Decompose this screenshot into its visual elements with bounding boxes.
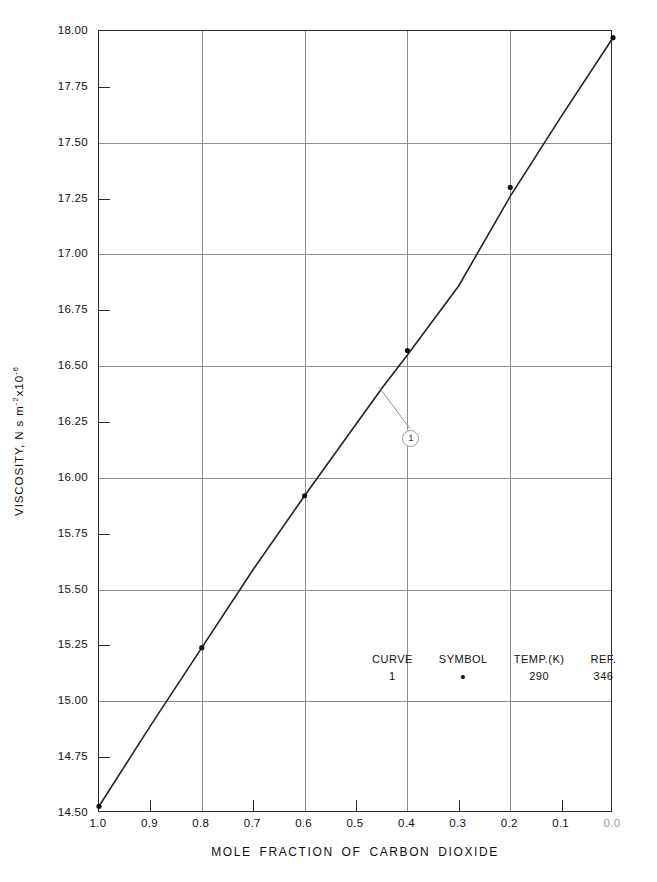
y-axis-title: VISCOSITY, N s m-2x10-6: [11, 366, 25, 516]
legend: CURVE SYMBOL TEMP.(K) REF. 1 • 290 346: [359, 651, 629, 685]
x-tick-label: 0.7: [244, 817, 261, 829]
x-tick-label: 0.6: [295, 817, 312, 829]
chart-page: VISCOSITY, N s m-2x10-6 MOLE FRACTION OF…: [0, 0, 657, 882]
x-tick-label: 0.1: [552, 817, 569, 829]
y-axis-title-mid: x10: [13, 375, 25, 396]
legend-cell-temp: 290: [501, 668, 578, 685]
x-tick-label: 0.2: [501, 817, 518, 829]
x-tick-label: 0.4: [398, 817, 415, 829]
legend-row: 1 • 290 346: [359, 668, 629, 685]
y-tick-label: 16.75: [38, 303, 88, 315]
data-point: [405, 348, 410, 353]
y-axis-title-exponent-2: -6: [11, 366, 20, 375]
callout-leader-line: [379, 387, 410, 428]
x-tick-label: 1.0: [90, 817, 107, 829]
legend-table: CURVE SYMBOL TEMP.(K) REF. 1 • 290 346: [359, 651, 629, 685]
y-tick-label: 18.00: [38, 24, 88, 36]
data-point: [610, 35, 615, 40]
legend-header-ref: REF.: [578, 651, 630, 668]
legend-header-curve: CURVE: [359, 651, 426, 668]
curve-line-1: [99, 38, 613, 807]
y-tick-label: 16.25: [38, 415, 88, 427]
y-tick-label: 17.25: [38, 192, 88, 204]
y-tick-label: 14.75: [38, 750, 88, 762]
data-layer: [99, 31, 613, 813]
y-tick-label: 15.75: [38, 527, 88, 539]
legend-cell-ref: 346: [578, 668, 630, 685]
x-axis-title: MOLE FRACTION OF CARBON DIOXIDE: [211, 845, 499, 859]
y-tick-label: 17.00: [38, 247, 88, 259]
y-tick-label: 17.75: [38, 80, 88, 92]
y-tick-label: 14.50: [38, 806, 88, 818]
legend-header-temp: TEMP.(K): [501, 651, 578, 668]
y-tick-label: 16.00: [38, 471, 88, 483]
x-tick-label: 0.5: [347, 817, 364, 829]
legend-cell-curve: 1: [359, 668, 426, 685]
data-point: [302, 493, 307, 498]
y-tick-label: 15.50: [38, 583, 88, 595]
data-point: [199, 645, 204, 650]
legend-header-symbol: SYMBOL: [426, 651, 501, 668]
data-points-1: [96, 35, 615, 809]
y-tick-label: 16.50: [38, 359, 88, 371]
y-tick-label: 15.00: [38, 694, 88, 706]
y-tick-label: 17.50: [38, 136, 88, 148]
data-point: [96, 804, 101, 809]
x-tick-label: 0.0: [604, 817, 621, 829]
data-point: [508, 185, 513, 190]
y-axis-title-exponent-1: -2: [11, 396, 20, 405]
y-axis-title-prefix: VISCOSITY, N s m: [13, 405, 25, 516]
plot-area: CURVE SYMBOL TEMP.(K) REF. 1 • 290 346: [98, 30, 612, 812]
x-tick-label: 0.3: [449, 817, 466, 829]
y-tick-label: 15.25: [38, 638, 88, 650]
x-tick-label: 0.9: [141, 817, 158, 829]
legend-header-row: CURVE SYMBOL TEMP.(K) REF.: [359, 651, 629, 668]
legend-cell-symbol: •: [426, 668, 501, 685]
x-tick-label: 0.8: [192, 817, 209, 829]
